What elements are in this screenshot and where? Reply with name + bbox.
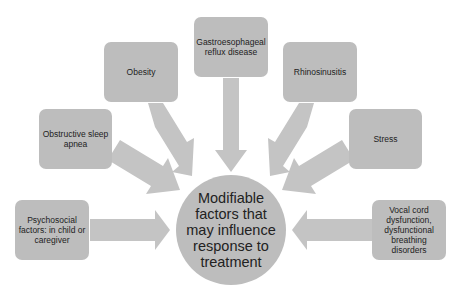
factor-box-obesity: Obesity bbox=[104, 42, 178, 102]
factor-box-stress: Stress bbox=[349, 109, 422, 169]
factor-box-psychosocial: Psychosocial factors: in child or caregi… bbox=[15, 200, 89, 260]
factor-label: Rhinosinusitis bbox=[294, 67, 346, 77]
center-label: Modifiable factors that may influence re… bbox=[186, 190, 276, 270]
arrow-vocal-cord bbox=[292, 210, 372, 250]
factor-label: Obstructive sleep apnea bbox=[42, 129, 109, 149]
factor-box-obstructive-sleep-apnea: Obstructive sleep apnea bbox=[39, 109, 112, 169]
factor-label: Obesity bbox=[127, 67, 156, 77]
factors-diagram: Gastroesophageal reflux disease Obesity … bbox=[0, 0, 463, 288]
arrow-gerd bbox=[215, 78, 247, 172]
factor-label: Psychosocial factors: in child or caregi… bbox=[18, 215, 86, 245]
factor-label: Vocal cord dysfunction, dysfunctional br… bbox=[375, 205, 443, 255]
factor-label: Stress bbox=[373, 134, 397, 144]
factor-label: Gastroesophageal reflux disease bbox=[196, 37, 265, 57]
factor-box-vocal-cord: Vocal cord dysfunction, dysfunctional br… bbox=[372, 200, 446, 260]
center-circle: Modifiable factors that may influence re… bbox=[176, 175, 286, 285]
arrow-psychosocial bbox=[90, 210, 170, 250]
factor-box-rhinosinusitis: Rhinosinusitis bbox=[283, 42, 357, 102]
factor-box-gerd: Gastroesophageal reflux disease bbox=[194, 17, 268, 77]
